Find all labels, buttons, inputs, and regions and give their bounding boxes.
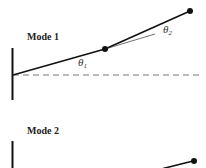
mode2-label: Mode 2: [27, 125, 59, 136]
theta2-label: θ2: [163, 23, 172, 37]
pendulum-modes-diagram: Mode 1 θ1 θ2 Mode 2: [0, 0, 206, 168]
mode2-end-mass: [191, 158, 197, 164]
mode1-end-mass: [187, 8, 193, 14]
mode2-link2: [163, 161, 193, 168]
theta1-label: θ1: [78, 56, 87, 70]
mode1-group: Mode 1 θ1 θ2: [13, 8, 201, 100]
mode1-extension-line: [105, 34, 155, 49]
mode1-label: Mode 1: [27, 31, 59, 42]
mode1-joint: [102, 46, 108, 52]
mode2-group: Mode 2: [13, 125, 198, 168]
mode1-link2: [105, 11, 190, 49]
mode1-link1: [13, 49, 105, 75]
